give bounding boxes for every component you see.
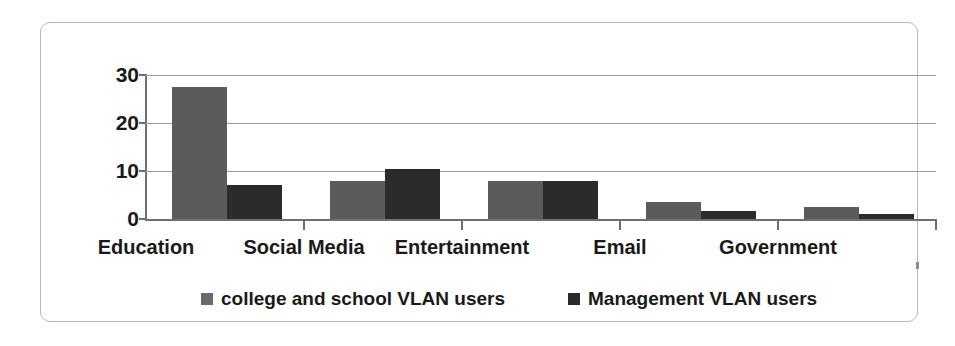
legend-label-college-and-school-vlan-users: college and school VLAN users [221, 289, 505, 308]
chart-legend: college and school VLAN users Management… [201, 289, 821, 319]
category-label-social-media: Social Media [225, 236, 383, 258]
x-axis-line [145, 219, 936, 221]
category-tick-5 [935, 219, 937, 230]
y-axis-tick-labels: 30 20 10 0 [81, 23, 139, 346]
category-tick-3 [619, 219, 621, 230]
legend-swatch-icon-series-b [568, 293, 580, 305]
legend-swatch-icon-series-a [201, 293, 213, 305]
y-axis-tick-label-10: 10 [93, 160, 139, 181]
y-axis-tick-label-0: 0 [93, 208, 139, 229]
bar-social-media-college-and-school-vlan-users [330, 181, 385, 219]
category-tick-2 [461, 219, 463, 230]
category-tick-4 [777, 219, 779, 230]
category-label-entertainment: Entertainment [383, 236, 541, 258]
bar-education-management-vlan-users [227, 185, 282, 219]
bar-email-college-and-school-vlan-users [646, 202, 701, 219]
category-label-education: Education [67, 236, 225, 258]
gridline-10 [145, 171, 936, 172]
category-label-email: Email [541, 236, 699, 258]
bar-government-college-and-school-vlan-users [804, 207, 859, 219]
y-axis-tick-label-30: 30 [93, 64, 139, 85]
bar-government-management-vlan-users [859, 214, 914, 219]
category-tick-1 [303, 219, 305, 230]
legend-entry-management-vlan-users: Management VLAN users [568, 289, 817, 308]
legend-label-management-vlan-users: Management VLAN users [588, 289, 817, 308]
bar-social-media-management-vlan-users [385, 169, 440, 219]
category-label-government: Government [699, 236, 857, 258]
bar-entertainment-college-and-school-vlan-users [488, 181, 543, 219]
gridline-20 [145, 123, 936, 124]
y-axis-tick-label-20: 20 [93, 112, 139, 133]
scan-artifact-speck [916, 262, 919, 269]
chart-frame: 30 20 10 0 [40, 22, 918, 322]
legend-entry-college-and-school-vlan-users: college and school VLAN users [201, 289, 505, 308]
bar-entertainment-management-vlan-users [543, 181, 598, 219]
figure-root: 30 20 10 0 [0, 0, 955, 346]
gridline-30 [145, 75, 936, 76]
plot-area [145, 75, 936, 219]
bar-email-management-vlan-users [701, 211, 756, 219]
bar-education-college-and-school-vlan-users [172, 87, 227, 219]
